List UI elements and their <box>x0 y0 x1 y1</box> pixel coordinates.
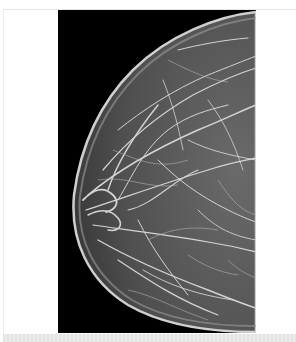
mammogram-image: Grayscale mammogram showing breast tissu… <box>58 10 256 333</box>
bottom-strip <box>3 334 296 342</box>
breast-tissue-graphic <box>58 10 256 333</box>
